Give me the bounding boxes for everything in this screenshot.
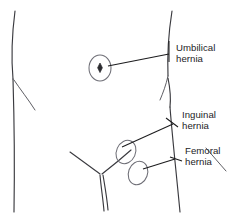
left-torso-lower-outline (13, 79, 14, 212)
anatomy-illustration: Umbilical hernia Inguinal hernia Femoral… (0, 0, 241, 223)
left-inguinal-fold (70, 152, 100, 174)
umbilical-label-line2: hernia (176, 53, 204, 64)
hernia-diagram: Umbilical hernia Inguinal hernia Femoral… (0, 0, 241, 223)
right-torso-upper-outline (168, 11, 172, 76)
umbilical-label-line1: Umbilical (176, 42, 215, 53)
inguinal-leader-line (122, 124, 173, 147)
right-flank-outline (168, 78, 170, 107)
femoral-leader-line (143, 159, 175, 169)
femoral-label-line2: hernia (185, 156, 213, 167)
left-hip-crease (14, 80, 35, 110)
left-torso-upper-outline (12, 11, 15, 79)
navel-mark-icon (98, 63, 103, 73)
inguinal-label-line2: hernia (182, 120, 210, 131)
right-waist-crease (160, 76, 168, 100)
femoral-label-line1: Femoral (185, 145, 221, 156)
inguinal-label-line1: Inguinal (182, 109, 216, 120)
umbilical-leader-line (108, 54, 169, 66)
